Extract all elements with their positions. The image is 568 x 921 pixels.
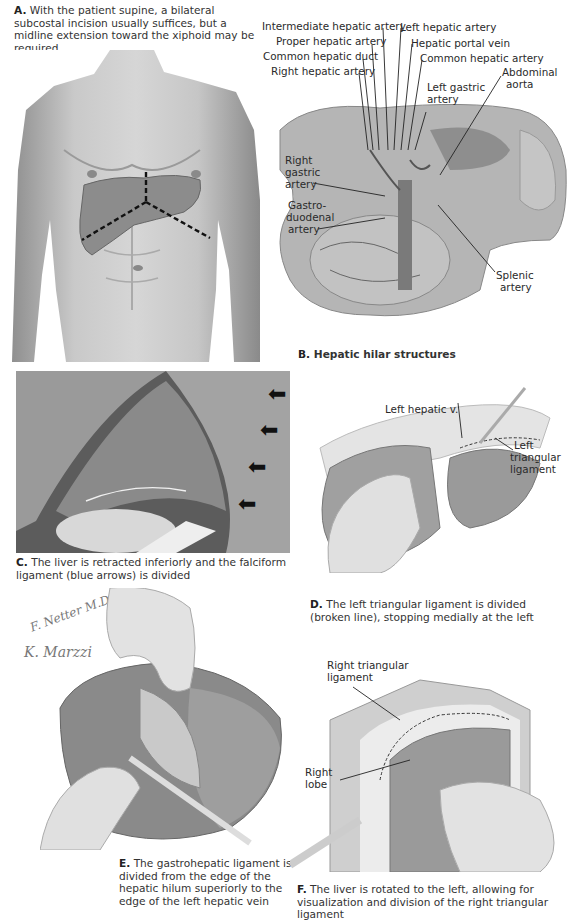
- label-proper-hepatic-artery: Proper hepatic artery: [276, 36, 387, 48]
- figure-a-torso-illustration: [4, 50, 260, 362]
- label-gastroduodenal-artery: Gastro- duodenal artery: [288, 200, 334, 235]
- figure-e-gastrohepatic-illustration: [40, 588, 290, 850]
- arrow-icon: ⬅: [248, 454, 266, 479]
- caption-d: D. The left triangular ligament is divid…: [310, 598, 560, 623]
- label-right-lobe: Right lobe: [305, 767, 332, 791]
- label-left-triangular-ligament: Left triangular ligament: [510, 440, 561, 475]
- label-abdominal-aorta: Abdominal aorta: [502, 67, 558, 91]
- figure-c-intraoperative-photo: ⬅ ⬅ ⬅ ⬅: [16, 371, 290, 553]
- label-splenic-artery: Splenic artery: [496, 270, 534, 294]
- label-right-triangular-ligament: Right triangular ligament: [327, 660, 409, 684]
- caption-e: E. The gastrohepatic ligament is divided…: [119, 857, 299, 907]
- label-left-gastric-artery: Left gastric artery: [427, 82, 485, 106]
- caption-f: F. The liver is rotated to the left, all…: [297, 883, 568, 921]
- arrow-icon: ⬅: [268, 381, 286, 406]
- label-hepatic-portal-vein: Hepatic portal vein: [411, 38, 510, 50]
- arrow-icon: ⬅: [238, 491, 256, 516]
- label-right-gastric-artery: Right gastric artery: [285, 155, 320, 190]
- caption-a: A. With the patient supine, a bilateral …: [14, 4, 264, 54]
- arrow-icon: ⬅: [260, 417, 278, 442]
- label-left-hepatic-v: Left hepatic v.: [385, 404, 458, 416]
- label-common-hepatic-duct: Common hepatic duct: [263, 51, 378, 63]
- label-intermediate-hepatic-artery: Intermediate hepatic artery: [262, 21, 406, 33]
- caption-b: B. Hepatic hilar structures: [298, 348, 456, 361]
- label-left-hepatic-artery: Left hepatic artery: [400, 22, 496, 34]
- label-right-hepatic-artery: Right hepatic artery: [271, 66, 375, 78]
- caption-c: C. The liver is retracted inferiorly and…: [16, 556, 296, 581]
- label-common-hepatic-artery: Common hepatic artery: [420, 53, 544, 65]
